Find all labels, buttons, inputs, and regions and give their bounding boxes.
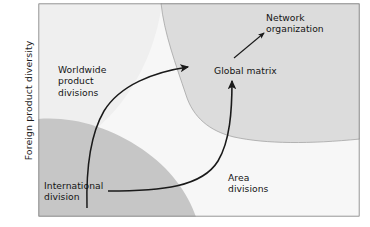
label-network-organization: Network organization xyxy=(266,12,324,35)
stopford-wells-diagram: Foreign product diversity xyxy=(0,0,370,227)
label-worldwide-product-divisions: Worldwide product divisions xyxy=(58,64,106,98)
label-international-division: International division xyxy=(44,180,103,203)
label-area-divisions: Area divisions xyxy=(228,172,268,195)
y-axis-label: Foreign product diversity xyxy=(23,11,34,191)
label-global-matrix: Global matrix xyxy=(214,65,277,76)
